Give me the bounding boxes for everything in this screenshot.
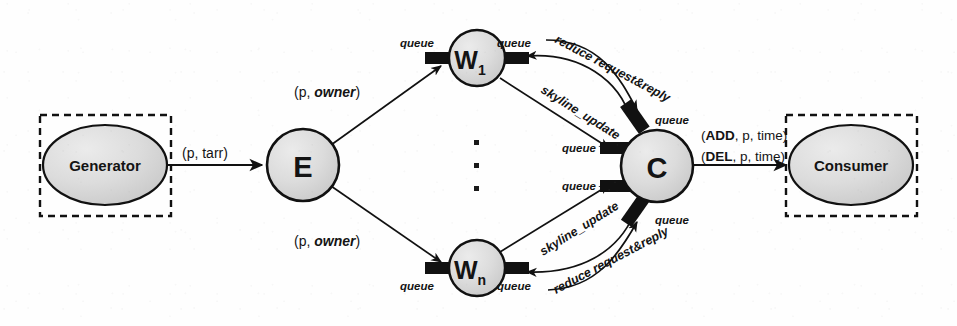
queue-label-collector-bottom: queue (655, 214, 689, 226)
label-skyline-update-top: skyline_update (538, 83, 622, 143)
label-generator-to-emitter: (p, tarr) (182, 145, 228, 161)
label-owner-emph-top: owner (314, 84, 357, 100)
label-reduce-request-reply-top: reduce request&reply (553, 32, 674, 105)
queue-label-worker-first-out: queue (497, 37, 531, 49)
edge-emitter-to-worker-last (331, 186, 441, 262)
label-add-rest: , p, time) (735, 128, 788, 143)
ellipsis-dot (474, 186, 479, 191)
node-worker-last-subscript: n (478, 272, 487, 288)
queue-label-collector-top: queue (655, 114, 689, 126)
label-collector-to-consumer-add: (ADD, p, time) (701, 128, 787, 143)
label-add-keyword: ADD (706, 128, 735, 143)
queue-label-collector-mid-upper: queue (562, 142, 596, 154)
label-owner-emph-bottom: owner (314, 233, 357, 249)
node-consumer-label: Consumer (814, 157, 888, 174)
label-paren-close-top: ) (355, 84, 360, 100)
label-p-prefix-top: (p, (294, 84, 314, 100)
diagram-canvas: Generator E W1 Wn C Consumer (p, tarr) (… (0, 0, 957, 326)
ellipsis-dot (474, 163, 479, 168)
node-worker-last-letter: W (454, 256, 478, 284)
node-collector-label: C (647, 152, 668, 184)
architecture-diagram: Generator E W1 Wn C Consumer (p, tarr) (… (0, 0, 957, 326)
ellipsis-dot (474, 140, 479, 145)
node-emitter-label: E (293, 151, 312, 183)
label-del-keyword: DEL (706, 149, 733, 164)
queue-label-worker-last-in: queue (400, 280, 434, 292)
label-skyline-update-bottom: skyline_update (537, 199, 621, 259)
node-worker-first-subscript: 1 (478, 62, 486, 78)
queue-label-collector-mid-lower: queue (562, 180, 596, 192)
label-paren-close-bottom: ) (355, 233, 360, 249)
label-del-rest: , p, time) (733, 149, 786, 164)
label-collector-to-consumer-del: (DEL, p, time) (701, 149, 785, 164)
queue-label-worker-last-out: queue (497, 280, 531, 292)
label-p-prefix-bottom: (p, (294, 233, 314, 249)
label-emitter-to-worker-first: (p, owner) (294, 84, 360, 100)
edge-emitter-to-worker-first (331, 66, 441, 145)
node-generator-label: Generator (69, 157, 141, 174)
label-emitter-to-worker-last: (p, owner) (294, 233, 360, 249)
node-worker-first-letter: W (454, 46, 478, 74)
queue-label-worker-first-in: queue (400, 37, 434, 49)
